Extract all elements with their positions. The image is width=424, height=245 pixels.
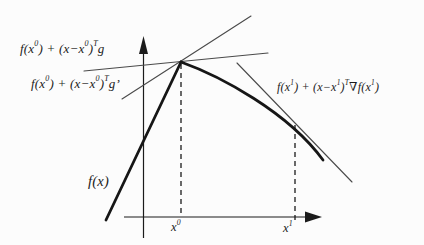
- x1-tick-label: x1: [283, 222, 293, 236]
- x-axis-arrowhead-icon: [305, 212, 322, 223]
- label-subgradient-g: f(x0) + (x−x0)Tg: [20, 42, 105, 56]
- diagram-canvas: [0, 0, 424, 245]
- label-subgradient-g-prime: f(x0) + (x−x0)Tg’: [31, 77, 120, 91]
- label-function-fx: f(x): [88, 174, 109, 190]
- x0-tick-label: x0: [171, 221, 181, 235]
- label-tangent-x1: f(x1) + (x−x1)T∇f(x1): [277, 81, 379, 94]
- subgradient-g-line: [84, 53, 268, 71]
- function-curve-segment: [181, 62, 323, 160]
- math-figure: f(x0) + (x−x0)Tg f(x0) + (x−x0)Tg’ f(x1)…: [0, 0, 424, 245]
- y-axis-arrowhead-icon: [139, 36, 148, 54]
